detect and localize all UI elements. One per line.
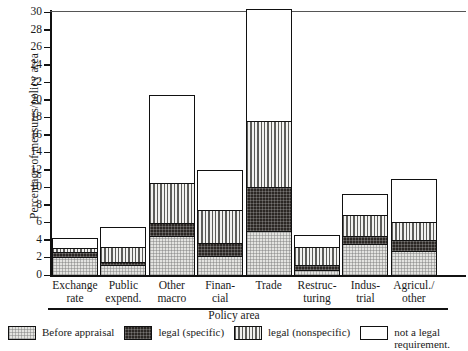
y-axis-tick-label: 8 xyxy=(16,199,42,211)
bar-segment-notlegal xyxy=(343,195,387,216)
legend-label: not a legal requirement. xyxy=(394,326,454,350)
y-axis-tick-mark xyxy=(44,275,50,277)
bar-segment-specific xyxy=(53,253,97,258)
y-axis-tick-mark xyxy=(44,204,50,206)
legend-label: legal (specific) xyxy=(158,326,224,338)
y-axis-tick-mark xyxy=(44,64,50,66)
bar-segment-nonspecific xyxy=(53,249,97,252)
legend-label: legal (nonspecific) xyxy=(268,326,350,338)
bar-public-expend[interactable] xyxy=(100,227,146,275)
bar-segment-specific xyxy=(295,266,339,271)
bar-segment-before xyxy=(198,257,242,275)
bar-industrial[interactable] xyxy=(342,194,388,275)
x-axis-title: Policy area xyxy=(0,309,468,321)
bar-other-macro[interactable] xyxy=(149,95,195,275)
y-axis-tick-mark xyxy=(44,29,50,31)
bar-segment-specific xyxy=(392,241,436,252)
bar-segment-specific xyxy=(247,188,291,233)
bar-segment-before xyxy=(53,258,97,275)
legend-item-before[interactable]: Before appraisal xyxy=(8,326,114,340)
bar-segment-nonspecific xyxy=(392,223,436,241)
y-axis-tick-mark xyxy=(44,47,50,49)
bar-segment-before xyxy=(295,271,339,275)
bar-segment-notlegal xyxy=(198,171,242,211)
y-axis-tick-mark xyxy=(44,257,50,259)
bar-chart-figure: Percentage of measures/policy area 02468… xyxy=(0,0,468,351)
y-axis-tick-mark xyxy=(44,152,50,154)
legend-label: Before appraisal xyxy=(42,326,114,338)
bar-segment-nonspecific xyxy=(150,184,194,224)
bar-segment-nonspecific xyxy=(198,211,242,244)
y-axis-tick-mark xyxy=(44,12,50,14)
bar-segment-specific xyxy=(101,263,145,266)
x-axis-label-line: other xyxy=(379,292,449,305)
bar-segment-specific xyxy=(198,244,242,257)
bar-segment-notlegal xyxy=(295,236,339,248)
y-axis-tick-label: 0 xyxy=(16,269,42,281)
y-axis-tick-label: 24 xyxy=(16,59,42,71)
bar-segment-notlegal xyxy=(247,10,291,122)
y-axis-tick-mark xyxy=(44,169,50,171)
legend-item-nonspecific[interactable]: legal (nonspecific) xyxy=(234,326,350,340)
y-axis-tick-label: 4 xyxy=(16,234,42,246)
y-axis-tick-label: 30 xyxy=(16,6,42,18)
bar-segment-nonspecific xyxy=(343,216,387,237)
bar-segment-before xyxy=(343,245,387,275)
bar-segment-specific xyxy=(343,237,387,245)
y-axis-tick-label: 28 xyxy=(16,24,42,36)
y-axis-tick-mark xyxy=(44,99,50,101)
bar-segment-nonspecific xyxy=(101,248,145,263)
y-axis-tick-label: 16 xyxy=(16,129,42,141)
y-axis-tick-label: 26 xyxy=(16,41,42,53)
y-axis-tick-label: 2 xyxy=(16,251,42,263)
y-axis-tick-mark xyxy=(44,222,50,224)
y-axis-tick-label: 22 xyxy=(16,76,42,88)
bar-segment-notlegal xyxy=(101,228,145,249)
legend-item-notlegal[interactable]: not a legal requirement. xyxy=(360,326,454,350)
plot-area xyxy=(52,12,466,275)
bar-segment-before xyxy=(392,252,436,275)
legend-swatch-notlegal xyxy=(360,326,388,340)
y-axis-tick-mark xyxy=(44,239,50,241)
legend-swatch-specific xyxy=(124,326,152,340)
bar-segment-notlegal xyxy=(53,239,97,249)
bar-exchange-rate[interactable] xyxy=(52,238,98,275)
y-axis-tick-label: 18 xyxy=(16,111,42,123)
bar-segment-before xyxy=(101,266,145,275)
y-axis-tick-label: 10 xyxy=(16,181,42,193)
bar-segment-specific xyxy=(150,224,194,236)
bar-segment-nonspecific xyxy=(295,248,339,266)
bar-financial[interactable] xyxy=(197,170,243,275)
x-axis-line xyxy=(50,275,466,277)
bar-segment-notlegal xyxy=(150,96,194,184)
bar-segment-nonspecific xyxy=(247,122,291,188)
legend-swatch-before xyxy=(8,326,36,340)
y-axis-tick-mark xyxy=(44,187,50,189)
bar-segment-notlegal xyxy=(392,180,436,223)
y-axis-tick-label: 14 xyxy=(16,146,42,158)
y-axis-tick-mark xyxy=(44,117,50,119)
bar-restructuring[interactable] xyxy=(294,235,340,275)
x-axis-label-7: Agricul./other xyxy=(379,279,449,305)
y-axis-tick-label: 6 xyxy=(16,216,42,228)
bar-trade[interactable] xyxy=(246,9,292,275)
chart-legend: Before appraisallegal (specific)legal (n… xyxy=(8,326,464,350)
bar-agricul-other[interactable] xyxy=(391,179,437,275)
x-axis-label-line: Agricul./ xyxy=(379,279,449,292)
x-axis-label-line: cial xyxy=(185,292,255,305)
legend-item-specific[interactable]: legal (specific) xyxy=(124,326,224,340)
y-axis-tick-mark xyxy=(44,82,50,84)
legend-swatch-nonspecific xyxy=(234,326,262,340)
y-axis-tick-mark xyxy=(44,134,50,136)
y-axis-tick-label: 12 xyxy=(16,164,42,176)
bar-segment-before xyxy=(150,237,194,275)
y-axis-tick-label: 20 xyxy=(16,94,42,106)
bar-segment-before xyxy=(247,232,291,275)
